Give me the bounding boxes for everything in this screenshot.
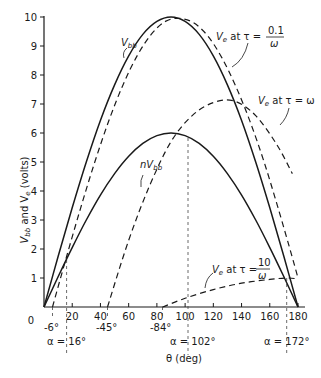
phase-minus-84: -84°: [150, 322, 171, 333]
nvbb-label: nVbb: [140, 159, 163, 172]
vbb-label: Vbb: [121, 37, 137, 50]
x-tick-label: 180: [288, 311, 307, 322]
curve-4: [163, 278, 299, 307]
ve01-pointer: [232, 43, 248, 67]
ve01-fraction-num: 0.1: [268, 25, 284, 36]
alpha-102-label: α = 102°: [170, 336, 215, 347]
y-tick-label: 10: [24, 12, 37, 23]
x-axis-label: θ (deg): [166, 353, 202, 364]
y-tick-label: 7: [31, 99, 37, 110]
x-tick-label: 100: [176, 311, 195, 322]
y-tick-label: 5: [31, 157, 37, 168]
y-tick-label: 6: [31, 128, 37, 139]
ve01-fraction-den: ω: [270, 38, 278, 49]
x-tick-label: 120: [204, 311, 223, 322]
phase-minus-45: -45°: [96, 322, 117, 333]
phase-minus-6: -6°: [44, 322, 59, 333]
ve01-label: Ve at τ =: [216, 31, 261, 44]
ve1-pointer: [280, 108, 289, 125]
alpha-172-label: α = 172°: [264, 336, 309, 347]
x-tick-label: 60: [122, 311, 135, 322]
x-ticks: 20406080100120140160180: [66, 303, 308, 322]
x-tick-label: 40: [94, 311, 107, 322]
y-tick-label: 8: [31, 70, 37, 81]
vbb-pointer: [123, 48, 127, 58]
x-tick-label: 80: [151, 311, 164, 322]
y-tick-label: 2: [31, 244, 37, 255]
x-tick-label: 140: [232, 311, 251, 322]
phase-angle-chart: 012345678910 20406080100120140160180 Vbb…: [0, 0, 321, 378]
y-tick-label: 0: [28, 315, 34, 326]
y-tick-label: 3: [31, 215, 37, 226]
alpha-16-label: α = 16°: [47, 336, 86, 347]
x-tick-label: 160: [260, 311, 279, 322]
x-tick-label: 20: [66, 311, 79, 322]
ve1-label: Ve at τ = ω: [258, 95, 315, 108]
ve10-label: Ve at τ =: [212, 264, 257, 277]
ve10-fraction-num: 10: [258, 257, 271, 268]
nvbb-pointer: [141, 175, 143, 187]
ve10-pointer: [205, 273, 213, 288]
y-tick-label: 9: [31, 41, 37, 52]
y-tick-label: 1: [31, 273, 37, 284]
y-axis-label: Vbb and Ve (volts): [19, 156, 32, 243]
ve10-fraction-den: ω: [258, 270, 266, 281]
